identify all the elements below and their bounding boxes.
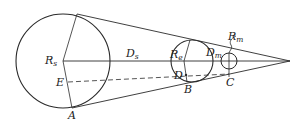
label-point-b: B	[183, 83, 192, 96]
label-earth-moon-distance: Dm	[205, 46, 222, 60]
label-sun-radius: Rs	[44, 54, 57, 68]
label-sun-earth-distance: Ds	[125, 47, 139, 61]
label-earth-radius: Re	[169, 48, 183, 62]
label-point-c: C	[226, 76, 235, 89]
point-d-dot	[185, 74, 187, 76]
earth-radius-top	[184, 40, 190, 61]
sun-radius-top	[63, 14, 77, 61]
eclipse-geometry-diagram: Rs Ds Re Dm Rm E A D B C	[0, 0, 306, 123]
label-point-d: D	[173, 69, 183, 82]
label-moon-radius: Rm	[227, 30, 243, 44]
earth-radius-bottom	[184, 61, 187, 82]
label-point-e: E	[55, 76, 64, 89]
label-point-a: A	[67, 109, 76, 122]
sun-radius-bottom	[63, 61, 72, 108]
